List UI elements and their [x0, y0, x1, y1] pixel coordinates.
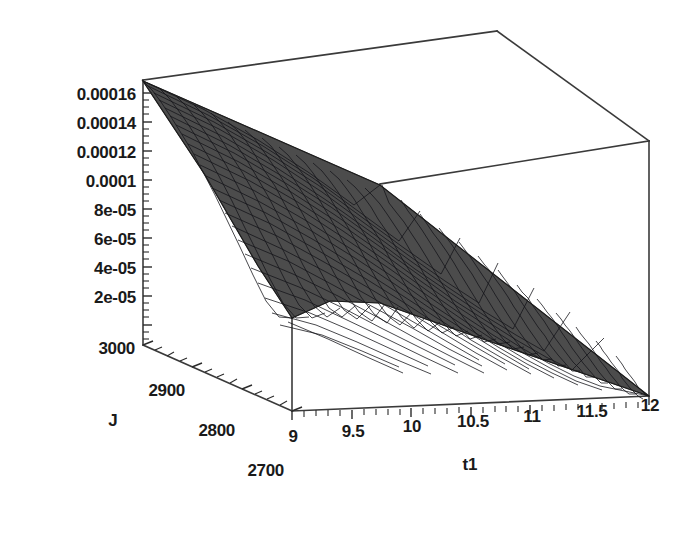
t1-tick-label: 11: [523, 407, 540, 426]
t1-axis-label: t1: [462, 455, 477, 474]
j-axis-label: J: [108, 411, 117, 430]
box-edge-top-right: [497, 31, 649, 141]
j-tick-label: 2700: [247, 461, 284, 480]
box-edge-top-front-right: [380, 141, 649, 184]
j-tick-label: 2800: [198, 421, 235, 440]
surface-plot-figure: 0.00016 0.00014 0.00012 0.0001 8e-05 6e-…: [0, 0, 682, 533]
j-tick-label: 2900: [148, 381, 185, 400]
t1-tick-label: 9.5: [342, 422, 365, 441]
t1-tick-label: 11.5: [577, 402, 608, 421]
j-axis-ticks: [143, 341, 302, 411]
t1-tick-label: 12: [641, 396, 659, 415]
z-tick-label: 0.00014: [77, 114, 137, 133]
z-tick-label: 6e-05: [94, 230, 136, 249]
z-tick-label: 8e-05: [94, 201, 136, 220]
t1-tick-label: 10.5: [457, 412, 489, 431]
t1-tick-label: 10: [403, 417, 421, 436]
z-tick-label: 4e-05: [94, 259, 136, 278]
surface-mesh: [143, 81, 649, 399]
z-tick-label: 0.00016: [77, 85, 136, 104]
box-edge-top-left: [143, 31, 497, 80]
j-tick-label: 3000: [98, 339, 135, 358]
plot-canvas: 0.00016 0.00014 0.00012 0.0001 8e-05 6e-…: [0, 0, 682, 533]
z-axis-ticks: [143, 93, 152, 339]
t1-tick-label: 9: [288, 427, 297, 446]
box-edge-j-axis: [143, 345, 292, 411]
j-axis-tick-labels: 3000 2900 2800 2700: [98, 339, 284, 480]
z-tick-label: 0.0001: [86, 172, 136, 191]
z-tick-label: 2e-05: [94, 288, 136, 307]
z-axis-tick-labels: 0.00016 0.00014 0.00012 0.0001 8e-05 6e-…: [77, 85, 137, 307]
z-tick-label: 0.00012: [77, 143, 136, 162]
